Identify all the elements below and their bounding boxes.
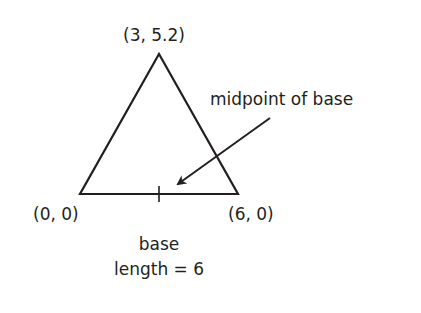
triangle-diagram: (3, 5.2) (0, 0) (6, 0) midpoint of base …	[0, 0, 421, 313]
vertex-label-bottom-right: (6, 0)	[228, 206, 274, 223]
midpoint-annotation: midpoint of base	[210, 91, 353, 108]
vertex-label-top: (3, 5.2)	[123, 27, 185, 44]
base-label: base	[109, 236, 209, 253]
triangle-shape	[80, 54, 238, 194]
vertex-label-bottom-left: (0, 0)	[33, 206, 79, 223]
base-length-label: length = 6	[99, 261, 219, 278]
midpoint-arrow	[178, 118, 270, 184]
